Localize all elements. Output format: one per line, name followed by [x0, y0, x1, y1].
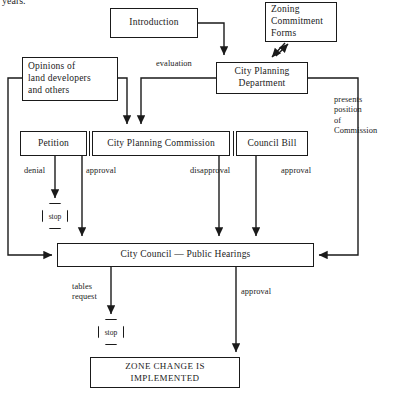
node-city-planning-department[interactable]: City Planning Department	[216, 62, 308, 94]
node-city-planning-commission[interactable]: City Planning Commission	[92, 131, 230, 156]
edge-label-approval-council-bill: approval	[281, 166, 311, 176]
edge-label-approval-final: approval	[241, 287, 271, 297]
node-petition-label: Petition	[38, 138, 69, 150]
node-zone-change-implemented[interactable]: ZONE CHANGE IS IMPLEMENTED	[90, 357, 240, 388]
flowchart-page: years.	[0, 0, 403, 394]
edge-label-denial: denial	[24, 166, 45, 176]
node-zoning-commitment-forms[interactable]: Zoning Commitment Forms	[265, 2, 337, 42]
node-council-bill-label: Council Bill	[247, 138, 296, 150]
edge-department-evaluation-to-commission	[141, 78, 216, 124]
edge-opinions-to-commission	[118, 78, 127, 124]
node-city-planning-department-label: City Planning Department	[234, 66, 289, 90]
node-city-planning-commission-label: City Planning Commission	[107, 138, 215, 150]
node-introduction-label: Introduction	[129, 17, 178, 29]
stop-denial-label: stop	[49, 212, 62, 221]
node-opinions-label: Opinions of land developers and others	[28, 61, 91, 97]
edge-label-presents-position: presents position of Commission	[334, 95, 377, 136]
edge-label-tables-request: tables request	[72, 282, 97, 303]
node-petition[interactable]: Petition	[20, 131, 87, 156]
node-opinions-of-land-developers[interactable]: Opinions of land developers and others	[22, 57, 118, 101]
node-zoning-commitment-forms-label: Zoning Commitment Forms	[271, 4, 323, 40]
node-council-bill[interactable]: Council Bill	[236, 131, 308, 156]
node-introduction[interactable]: Introduction	[110, 8, 198, 38]
stop-tables-label: stop	[105, 328, 118, 337]
node-city-council-public-hearings[interactable]: City Council — Public Hearings	[57, 243, 314, 267]
row-divider-left	[89, 131, 90, 156]
edge-label-evaluation: evaluation	[156, 59, 192, 69]
edge-label-approval-commission: approval	[86, 166, 116, 176]
edge-introduction-to-department	[198, 23, 224, 55]
node-zone-change-label: ZONE CHANGE IS IMPLEMENTED	[125, 361, 205, 384]
edge-forms-to-department	[272, 43, 285, 57]
node-city-council-label: City Council — Public Hearings	[120, 249, 250, 261]
edge-label-disapproval: disapproval	[190, 166, 230, 176]
row-divider-right	[233, 131, 234, 156]
